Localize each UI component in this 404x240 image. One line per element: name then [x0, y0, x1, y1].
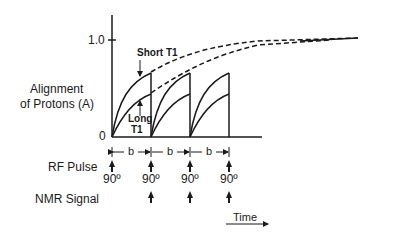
- interval-b-1: b: [128, 145, 134, 157]
- short-t1-seg-3: [190, 73, 229, 137]
- pulse-angle-4: 90º: [220, 172, 238, 186]
- y-axis-label-line2: of Protons (A): [20, 97, 94, 111]
- nmr-signal-arrows: [148, 191, 232, 203]
- nmr-signal-label: NMR Signal: [35, 192, 99, 206]
- time-label: Time: [233, 211, 257, 223]
- long-t1-seg-3: [190, 94, 229, 137]
- long-t1-seg-2: [151, 94, 190, 137]
- interval-b-2: b: [167, 145, 173, 157]
- pulse-angle-1: 90º: [103, 172, 121, 186]
- y-axis-label-line1: Alignment: [30, 82, 83, 96]
- pulse-angle-2: 90º: [142, 172, 160, 186]
- long-t1-label-line2: T1: [131, 124, 143, 135]
- short-t1-label: Short T1: [137, 47, 178, 58]
- short-t1-seg-2: [151, 73, 190, 137]
- pulse-angle-3: 90º: [181, 172, 199, 186]
- y-tick-label-zero: 0: [99, 129, 106, 143]
- y-tick-label-top: 1.0: [88, 33, 105, 47]
- interval-b-3: b: [206, 145, 212, 157]
- long-t1-label-line1: Long: [128, 113, 152, 124]
- rf-pulse-arrows: [109, 160, 232, 172]
- short-t1-dashed: [151, 38, 358, 72]
- rf-pulse-label: RF Pulse: [48, 160, 97, 174]
